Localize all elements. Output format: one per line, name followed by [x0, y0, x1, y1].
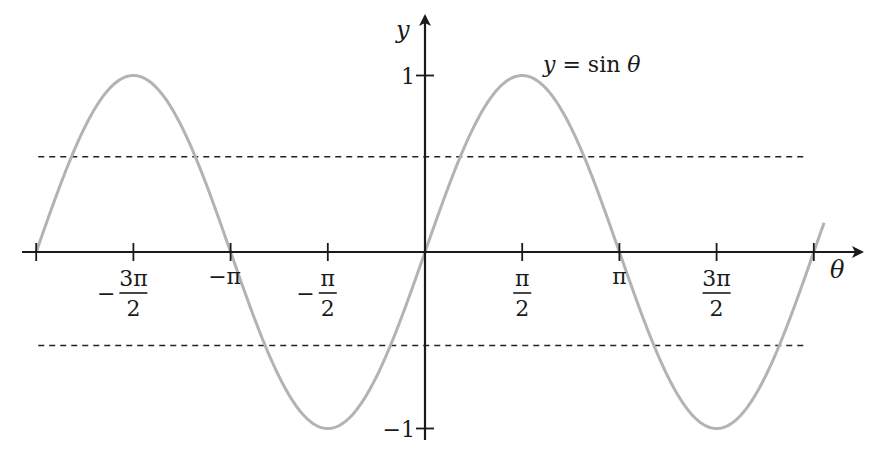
svg-text:π: π	[321, 266, 335, 291]
y-axis-label: y	[395, 16, 410, 44]
svg-text:2: 2	[710, 296, 724, 321]
svg-text:−: −	[296, 281, 314, 306]
svg-text:π: π	[612, 264, 626, 289]
function-label: y = sin θ	[542, 52, 641, 77]
svg-text:−: −	[97, 281, 115, 306]
svg-text:2: 2	[321, 296, 335, 321]
x-tick-label: 3π2−	[97, 266, 148, 321]
svg-text:2: 2	[515, 296, 529, 321]
y-tick-label: −1	[383, 417, 415, 442]
sine-graph: 3π2−−ππ2−π2π3π2 1−1 y θ y = sin θ	[0, 0, 879, 468]
x-tick-label: π	[612, 264, 626, 289]
x-tick-label: π2−	[296, 266, 336, 321]
svg-text:2: 2	[126, 296, 140, 321]
svg-text:3π: 3π	[702, 266, 730, 291]
x-tick-label: 3π2	[702, 266, 730, 321]
x-tick-label: π2	[513, 266, 531, 321]
x-tick-label: −π	[208, 264, 241, 289]
svg-text:π: π	[515, 266, 529, 291]
svg-text:−π: −π	[208, 264, 241, 289]
svg-text:3π: 3π	[119, 266, 147, 291]
x-axis-label: θ	[830, 256, 845, 284]
y-tick-label: 1	[401, 64, 415, 89]
